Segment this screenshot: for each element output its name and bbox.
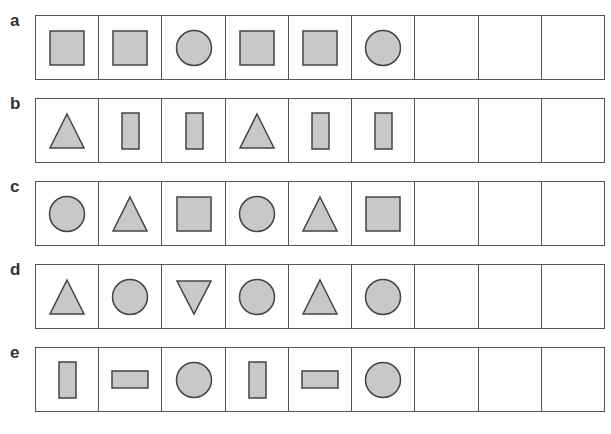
tall-rect-icon [247, 360, 267, 400]
triangle-up-icon [47, 111, 87, 151]
row-label: c [10, 177, 19, 197]
sequence-row-c: c [0, 181, 611, 247]
row-label: d [10, 260, 20, 280]
wide-rect-icon [300, 369, 340, 391]
shape-cell [99, 16, 162, 79]
empty-answer-cell[interactable] [542, 182, 604, 245]
triangle-up-icon [110, 194, 150, 234]
shape-cell [352, 265, 415, 328]
empty-answer-cell[interactable] [542, 348, 604, 411]
empty-answer-cell[interactable] [415, 16, 478, 79]
row-label: b [10, 94, 20, 114]
triangle-up-icon [300, 194, 340, 234]
empty-answer-cell[interactable] [479, 265, 542, 328]
shape-cell [36, 348, 99, 411]
triangle-up-icon [237, 111, 277, 151]
shape-cell [352, 348, 415, 411]
sequence-row-e: e [0, 347, 611, 413]
circle-icon [237, 277, 277, 317]
sequence-row-b: b [0, 98, 611, 164]
sequence-row-a: a [0, 15, 611, 81]
empty-answer-cell[interactable] [415, 265, 478, 328]
shape-cell [289, 99, 352, 162]
empty-answer-cell[interactable] [479, 348, 542, 411]
shape-cell [36, 99, 99, 162]
tall-rect-icon [120, 111, 140, 151]
empty-answer-cell[interactable] [479, 182, 542, 245]
shape-cell [352, 99, 415, 162]
tall-rect-icon [373, 111, 393, 151]
square-icon [47, 28, 87, 68]
circle-icon [237, 194, 277, 234]
shape-strip [35, 181, 605, 246]
square-icon [237, 28, 277, 68]
triangle-up-icon [47, 277, 87, 317]
shape-cell [99, 99, 162, 162]
shape-cell [36, 265, 99, 328]
empty-answer-cell[interactable] [542, 16, 604, 79]
circle-icon [47, 194, 87, 234]
circle-icon [363, 360, 403, 400]
square-icon [363, 194, 403, 234]
shape-cell [226, 16, 289, 79]
empty-answer-cell[interactable] [479, 99, 542, 162]
shape-cell [226, 265, 289, 328]
square-icon [174, 194, 214, 234]
circle-icon [174, 360, 214, 400]
tall-rect-icon [57, 360, 77, 400]
empty-answer-cell[interactable] [542, 265, 604, 328]
shape-strip [35, 15, 605, 80]
circle-icon [110, 277, 150, 317]
circle-icon [363, 28, 403, 68]
empty-answer-cell[interactable] [415, 348, 478, 411]
shape-cell [352, 16, 415, 79]
shape-cell [162, 182, 225, 245]
row-label: e [10, 343, 19, 363]
triangle-up-icon [300, 277, 340, 317]
shape-cell [162, 16, 225, 79]
shape-cell [99, 182, 162, 245]
shape-cell [289, 16, 352, 79]
square-icon [300, 28, 340, 68]
sequence-row-d: d [0, 264, 611, 330]
shape-cell [36, 182, 99, 245]
shape-strip [35, 98, 605, 163]
shape-cell [289, 182, 352, 245]
triangle-down-icon [174, 277, 214, 317]
shape-strip [35, 347, 605, 412]
shape-strip [35, 264, 605, 329]
shape-cell [162, 348, 225, 411]
shape-cell [162, 265, 225, 328]
empty-answer-cell[interactable] [415, 182, 478, 245]
shape-cell [226, 182, 289, 245]
shape-cell [289, 348, 352, 411]
shape-cell [99, 348, 162, 411]
shape-cell [162, 99, 225, 162]
square-icon [110, 28, 150, 68]
shape-cell [289, 265, 352, 328]
circle-icon [363, 277, 403, 317]
empty-answer-cell[interactable] [415, 99, 478, 162]
circle-icon [174, 28, 214, 68]
tall-rect-icon [310, 111, 330, 151]
row-label: a [10, 11, 19, 31]
shape-cell [99, 265, 162, 328]
wide-rect-icon [110, 369, 150, 391]
shape-cell [36, 16, 99, 79]
empty-answer-cell[interactable] [542, 99, 604, 162]
shape-cell [226, 99, 289, 162]
tall-rect-icon [184, 111, 204, 151]
shape-cell [352, 182, 415, 245]
shape-cell [226, 348, 289, 411]
empty-answer-cell[interactable] [479, 16, 542, 79]
